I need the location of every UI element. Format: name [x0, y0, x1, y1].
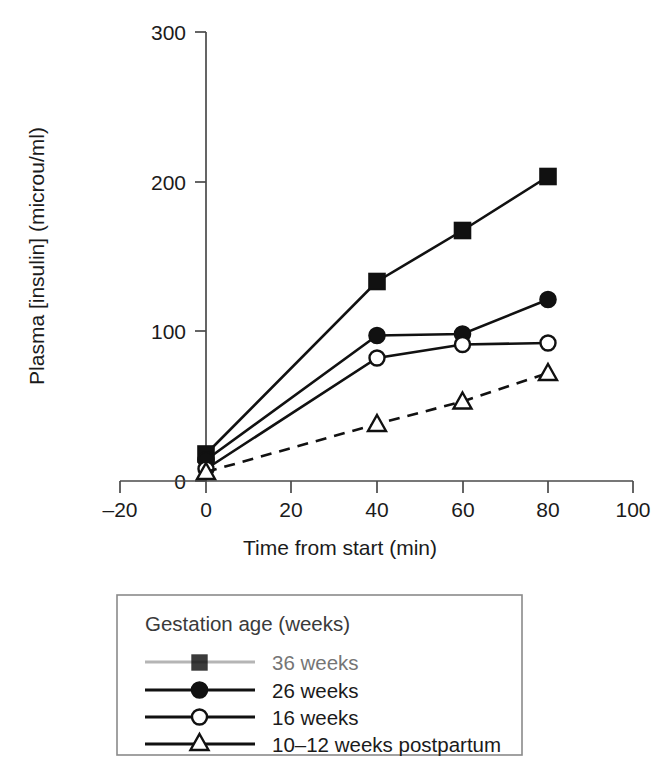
- series-10-12-weeks-postpartum: [197, 364, 557, 479]
- legend-title: Gestation age (weeks): [145, 612, 350, 635]
- legend-entry-16-weeks[interactable]: 16 weeks: [145, 706, 359, 729]
- y-tick-label-300: 300: [151, 21, 186, 44]
- x-tick-label-0: 0: [200, 498, 212, 521]
- filled-square-marker: [369, 274, 385, 290]
- legend-entry-36-weeks[interactable]: 36 weeks: [145, 651, 359, 674]
- y-tick-label-100: 100: [151, 320, 186, 343]
- x-tick-label-40: 40: [365, 498, 388, 521]
- open-triangle-icon: [191, 734, 209, 750]
- open-triangle-marker: [539, 364, 557, 380]
- filled-square-marker: [540, 169, 556, 185]
- insulin-response-figure: 300 200 100 0 Plasma [insulin] (microu/m…: [0, 0, 670, 784]
- x-tick-label-100: 100: [615, 498, 650, 521]
- legend: Gestation age (weeks) 36 weeks 26 weeks …: [117, 595, 522, 756]
- legend-entry-postpartum[interactable]: 10–12 weeks postpartum: [145, 733, 501, 756]
- filled-circle-marker: [540, 292, 556, 308]
- x-tick-label-20: 20: [279, 498, 302, 521]
- data-series-layer: [197, 169, 557, 480]
- series-path: [206, 177, 548, 455]
- filled-circle-icon: [192, 682, 208, 698]
- x-tick-label-minus20: –20: [102, 498, 137, 521]
- chart-canvas: 300 200 100 0 Plasma [insulin] (microu/m…: [0, 0, 670, 784]
- y-axis: 300 200 100 0 Plasma [insulin] (microu/m…: [25, 21, 206, 493]
- x-axis-title: Time from start (min): [243, 536, 437, 559]
- legend-label-postpartum: 10–12 weeks postpartum: [272, 733, 501, 756]
- filled-square-icon: [192, 655, 207, 670]
- legend-label-26-weeks: 26 weeks: [272, 679, 359, 702]
- open-circle-icon: [192, 710, 207, 725]
- legend-entry-26-weeks[interactable]: 26 weeks: [145, 679, 359, 702]
- x-tick-label-80: 80: [536, 498, 559, 521]
- open-circle-marker: [541, 336, 556, 351]
- open-circle-marker: [370, 351, 385, 366]
- y-axis-title: Plasma [insulin] (microu/ml): [25, 127, 48, 385]
- series-26-weeks: [198, 292, 556, 469]
- legend-label-16-weeks: 16 weeks: [272, 706, 359, 729]
- open-circle-marker: [455, 337, 470, 352]
- x-tick-label-60: 60: [451, 498, 474, 521]
- open-triangle-marker: [368, 415, 386, 431]
- filled-circle-marker: [369, 328, 385, 344]
- filled-square-marker: [455, 223, 471, 239]
- legend-label-36-weeks: 36 weeks: [272, 651, 359, 674]
- y-tick-label-200: 200: [151, 171, 186, 194]
